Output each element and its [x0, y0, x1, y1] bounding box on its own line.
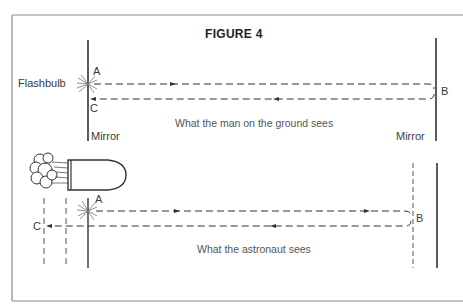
arrow-left-icon — [270, 224, 276, 228]
right-mirror-label: Mirror — [396, 131, 425, 142]
figure-4-diagram: FIGURE 4 Flashbulb A B C What the man on… — [0, 0, 463, 307]
arrow-right-icon — [364, 209, 370, 213]
point-b-label: B — [441, 86, 448, 97]
point-b-label: B — [416, 213, 423, 224]
point-c-label: C — [33, 221, 41, 232]
light-path-out — [94, 84, 434, 89]
light-path-return — [48, 221, 411, 226]
light-path-out — [96, 211, 411, 216]
light-path-return — [92, 94, 434, 99]
arrow-right-icon — [170, 82, 176, 86]
point-a-label: A — [93, 66, 100, 77]
arrow-left-icon — [90, 97, 96, 101]
bottom-caption: What the astronaut sees — [197, 244, 311, 255]
figure-title: FIGURE 4 — [205, 28, 263, 40]
point-a-label: A — [95, 194, 102, 205]
arrow-left-icon — [273, 97, 279, 101]
figure-frame — [12, 15, 463, 301]
arrow-right-icon — [174, 209, 180, 213]
flashbulb-burst-icon — [77, 201, 97, 220]
arrow-left-icon — [46, 224, 52, 228]
left-mirror-label: Mirror — [91, 131, 120, 142]
rocket-icon — [68, 160, 126, 190]
diagram-drawing — [0, 0, 463, 307]
point-c-label: C — [90, 103, 98, 114]
top-caption: What the man on the ground sees — [175, 118, 333, 129]
flashbulb-label: Flashbulb — [18, 78, 66, 89]
